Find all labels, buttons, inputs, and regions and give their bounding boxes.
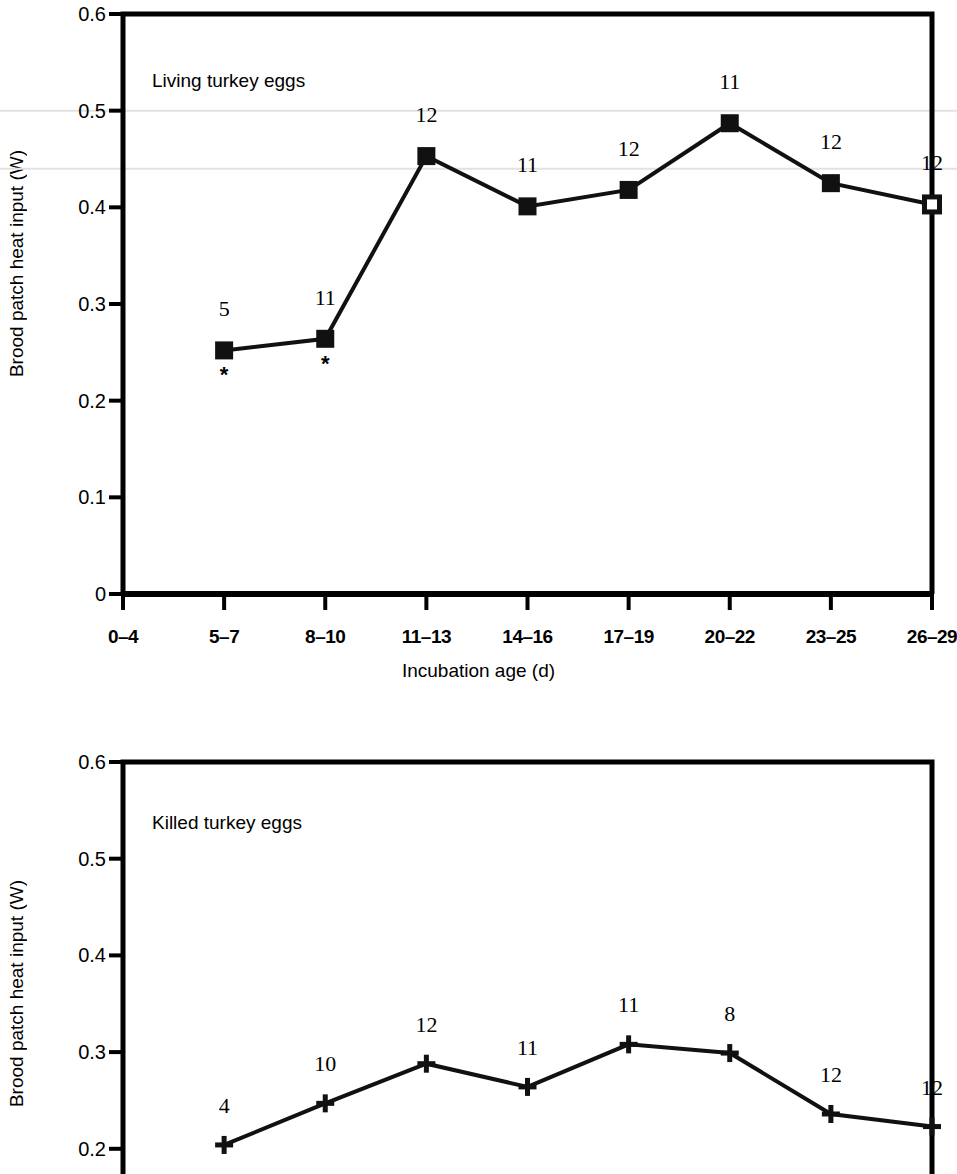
- sample-size-label: 8: [724, 1001, 735, 1027]
- sample-size-label: 12: [820, 129, 842, 155]
- sample-size-label: 12: [921, 1075, 943, 1101]
- chart-panel-killed-turkey-eggs: Killed turkey eggs 0.20.30.40.50.6410121…: [0, 740, 957, 1174]
- x-tick-label: 0–4: [108, 626, 138, 648]
- sample-size-label: 12: [415, 102, 437, 128]
- chart-title-killed-turkey-eggs: Killed turkey eggs: [152, 812, 302, 834]
- y-tick-label: 0: [40, 583, 106, 606]
- sample-size-label: 11: [517, 1035, 538, 1061]
- x-tick-label: 26–29: [907, 626, 957, 648]
- sample-size-label: 11: [315, 285, 336, 311]
- y-tick-label: 0.2: [40, 389, 106, 412]
- x-tick-label: 23–25: [806, 626, 856, 648]
- y-tick-label: 0.4: [40, 944, 106, 967]
- sample-size-label: 5: [219, 296, 230, 322]
- sample-size-label: 12: [921, 150, 943, 176]
- sample-size-label: 4: [219, 1093, 230, 1119]
- sample-size-label: 12: [415, 1012, 437, 1038]
- sample-size-label: 11: [618, 992, 639, 1018]
- y-tick-label: 0.3: [40, 1041, 106, 1064]
- x-tick-label: 11–13: [402, 626, 451, 648]
- x-tick-label: 5–7: [209, 626, 239, 648]
- x-tick-label: 14–16: [502, 626, 552, 648]
- x-tick-label: 8–10: [305, 626, 345, 648]
- y-tick-label: 0.6: [40, 751, 106, 774]
- y-tick-label: 0.5: [40, 847, 106, 870]
- chart-panel-living-turkey-eggs: Brood patch heat input (W) Living turkey…: [0, 0, 957, 700]
- sample-size-label: 10: [314, 1051, 336, 1077]
- y-tick-label: 0.5: [40, 99, 106, 122]
- plot-area-living-turkey-eggs: [0, 0, 957, 700]
- sample-size-label: 11: [517, 152, 538, 178]
- sample-size-label: 12: [618, 136, 640, 162]
- significance-asterisk: *: [321, 353, 330, 375]
- significance-asterisk: *: [220, 364, 229, 386]
- sample-size-label: 12: [820, 1062, 842, 1088]
- y-tick-label: 0.4: [40, 196, 106, 219]
- x-tick-label: 17–19: [603, 626, 653, 648]
- y-axis-label-bottom: Brood patch heat input (W): [6, 880, 28, 1107]
- plot-area-killed-turkey-eggs: [0, 740, 957, 1174]
- figure-brood-patch-heat-input: Brood patch heat input (W) Living turkey…: [0, 0, 957, 1174]
- y-tick-label: 0.3: [40, 293, 106, 316]
- y-tick-label: 0.2: [40, 1137, 106, 1160]
- y-tick-label: 0.6: [40, 3, 106, 26]
- sample-size-label: 11: [719, 69, 740, 95]
- x-tick-label: 20–22: [705, 626, 755, 648]
- y-tick-label: 0.1: [40, 486, 106, 509]
- x-axis-label-top: Incubation age (d): [0, 660, 957, 682]
